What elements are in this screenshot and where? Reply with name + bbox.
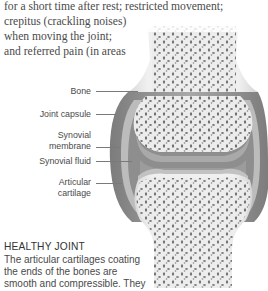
label-synovial-membrane-line-2: membrane: [49, 141, 91, 152]
label-synovial-membrane-line-1: Synovial: [58, 130, 91, 141]
caption-line-2: the ends of the bones are: [4, 266, 117, 279]
label-joint-capsule: Joint capsule: [40, 109, 91, 120]
leader-synovial-fluid: [96, 161, 132, 162]
label-bone: Bone: [70, 86, 91, 97]
leader-synovial-membrane: [96, 147, 120, 148]
label-articular-cartilage-line-2: cartilage: [58, 188, 91, 199]
label-articular-cartilage-line-1: Articular: [59, 177, 91, 188]
label-synovial-fluid: Synovial fluid: [39, 156, 91, 167]
leader-bone: [96, 91, 138, 92]
leader-articular-cartilage: [96, 183, 122, 184]
leader-joint-capsule: [96, 114, 116, 115]
caption-heading: HEALTHY JOINT: [4, 241, 85, 252]
caption-line-1: The articular cartilages coating: [4, 254, 140, 267]
caption-line-3: smooth and compressible. They: [4, 278, 146, 291]
